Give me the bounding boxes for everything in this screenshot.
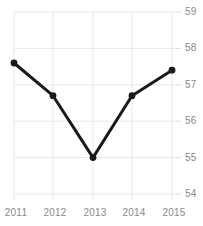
x-axis-label-2013: 2013 [83, 207, 106, 218]
data-point-2013[interactable] [90, 154, 97, 161]
y-axis-ticks [176, 12, 181, 194]
data-point-2012[interactable] [50, 92, 57, 99]
x-axis-label-2014: 2014 [122, 207, 145, 218]
y-axis-label-59: 59 [185, 6, 197, 17]
chart-plot-area [0, 0, 203, 226]
x-axis-label-2015: 2015 [162, 207, 185, 218]
y-axis-label-57: 57 [185, 79, 197, 90]
data-point-2014[interactable] [129, 92, 136, 99]
gridlines-vertical [14, 12, 172, 201]
data-point-2011[interactable] [11, 60, 18, 67]
data-point-2015[interactable] [169, 67, 176, 74]
x-axis-label-2011: 2011 [5, 207, 27, 218]
y-axis-label-55: 55 [185, 152, 197, 163]
x-axis-label-2012: 2012 [43, 207, 66, 218]
y-axis-label-58: 58 [185, 42, 197, 53]
y-axis-label-54: 54 [185, 188, 197, 199]
y-axis-label-56: 56 [185, 115, 197, 126]
gridlines-horizontal [14, 12, 176, 194]
line-chart: 59 58 57 56 55 54 2011 2012 2013 2014 20… [0, 0, 203, 226]
